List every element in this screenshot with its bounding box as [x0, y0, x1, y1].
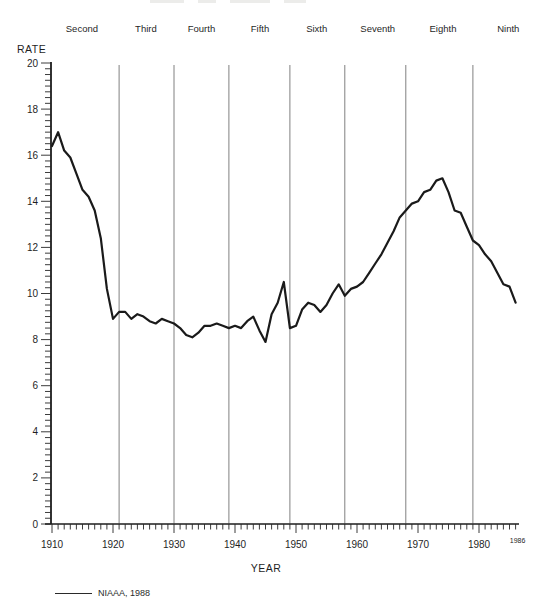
period-label: Fifth — [251, 23, 269, 34]
end-year-label: 1986 — [510, 537, 526, 544]
source-note-text: NIAAA, 1988 — [98, 588, 150, 598]
x-tick-label: 1940 — [224, 539, 247, 550]
x-tick-label: 1910 — [41, 539, 64, 550]
y-tick-label: 8 — [32, 334, 38, 345]
y-axis-title: RATE — [17, 43, 46, 55]
x-tick-label: 1960 — [346, 539, 369, 550]
source-note: NIAAA, 1988 — [55, 588, 150, 598]
period-label: Ninth — [497, 23, 519, 34]
x-axis: 191019201930194019501960197019801986YEAR — [41, 524, 526, 574]
period-label: Eighth — [430, 23, 457, 34]
y-tick-label: 10 — [27, 288, 39, 299]
x-tick-label: 1980 — [468, 539, 491, 550]
y-tick-label: 0 — [32, 519, 38, 530]
scan-artifact — [150, 0, 450, 5]
y-tick-label: 14 — [27, 196, 39, 207]
x-tick-label: 1920 — [102, 539, 125, 550]
period-label: Sixth — [306, 23, 327, 34]
icd-revision-dividers — [119, 65, 473, 524]
y-tick-label: 16 — [27, 150, 39, 161]
period-label: Fourth — [188, 23, 215, 34]
y-axis: 02468101214161820RATE — [17, 43, 51, 530]
legend-line-sample — [55, 593, 92, 594]
series — [52, 132, 516, 342]
y-tick-label: 12 — [27, 242, 39, 253]
x-tick-label: 1930 — [163, 539, 186, 550]
y-tick-label: 18 — [27, 104, 39, 115]
period-label: Seventh — [360, 23, 395, 34]
rate-series-line — [52, 132, 516, 342]
y-tick-label: 6 — [32, 380, 38, 391]
x-tick-label: 1950 — [285, 539, 308, 550]
x-tick-label: 1970 — [407, 539, 430, 550]
y-tick-label: 4 — [32, 426, 38, 437]
y-tick-label: 2 — [32, 472, 38, 483]
period-label: Second — [66, 23, 98, 34]
y-tick-label: 20 — [27, 58, 39, 69]
period-label: Third — [135, 23, 157, 34]
x-axis-title: YEAR — [251, 562, 282, 574]
period-labels: SecondThirdFourthFifthSixthSeventhEighth… — [66, 23, 520, 34]
